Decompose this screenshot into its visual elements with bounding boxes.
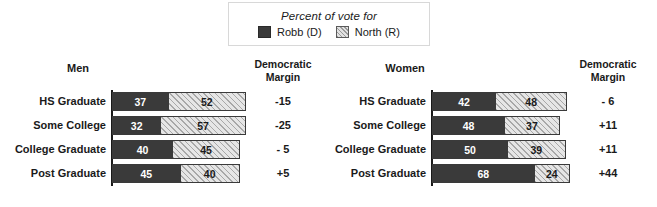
- stacked-bar: 32 57: [112, 116, 246, 135]
- bar-value-label: 32: [131, 120, 143, 132]
- row-label: Post Graduate: [320, 167, 426, 179]
- bar-value-label: 40: [204, 168, 216, 180]
- bar-value-label: 42: [458, 96, 470, 108]
- stacked-bar: 40 45: [112, 140, 240, 159]
- stacked-bar: 68 24: [432, 164, 570, 183]
- margin-value: -25: [240, 119, 326, 131]
- margin-value: +11: [565, 143, 651, 155]
- margin-header-line2: Margin: [240, 71, 326, 84]
- light-hatched-swatch-icon: [336, 26, 349, 38]
- margin-header-line1: Democratic: [565, 58, 651, 71]
- legend-item-label: North (R): [355, 26, 400, 38]
- table-row: HS Graduate 42 48 - 6: [320, 90, 657, 114]
- table-row: Some College 32 57 -25: [0, 114, 330, 138]
- stacked-bar: 48 37: [432, 116, 560, 135]
- margin-value: - 6: [565, 95, 651, 107]
- table-row: HS Graduate 37 52 -15: [0, 90, 330, 114]
- row-label: Some College: [0, 119, 106, 131]
- bar-segment-rep: 45: [172, 141, 239, 158]
- row-label: Post Graduate: [0, 167, 106, 179]
- stacked-bar: 50 39: [432, 140, 566, 159]
- margin-value: - 5: [240, 143, 326, 155]
- table-row: Post Graduate 68 24 +44: [320, 162, 657, 186]
- bar-segment-rep: 37: [504, 117, 559, 134]
- bar-segment-rep: 40: [180, 165, 239, 182]
- table-row: College Graduate 40 45 - 5: [0, 138, 330, 162]
- table-row: College Graduate 50 39 +11: [320, 138, 657, 162]
- bar-rows: HS Graduate 37 52 -15 Some College 32 57…: [0, 90, 330, 186]
- bar-segment-dem: 42: [433, 93, 495, 110]
- legend-items: Robb (D) North (R): [251, 26, 407, 38]
- margin-value: +44: [565, 167, 651, 179]
- bar-value-label: 50: [464, 144, 476, 156]
- margin-header-line2: Margin: [565, 71, 651, 84]
- bar-segment-rep: 52: [168, 93, 245, 110]
- bar-segment-rep: 48: [495, 93, 566, 110]
- margin-column-header: Democratic Margin: [565, 58, 651, 84]
- legend-item-label: Robb (D): [277, 26, 322, 38]
- bar-segment-dem: 50: [433, 141, 507, 158]
- stacked-bar: 45 40: [112, 164, 240, 183]
- bar-value-label: 37: [526, 120, 538, 132]
- row-label: College Graduate: [320, 143, 426, 155]
- bar-segment-dem: 68: [433, 165, 534, 182]
- table-row: Post Graduate 45 40 +5: [0, 162, 330, 186]
- chart-legend: Percent of vote for Robb (D) North (R): [228, 2, 430, 46]
- margin-value: -15: [240, 95, 326, 107]
- margin-value: +5: [240, 167, 326, 179]
- panel-title: Men: [38, 62, 118, 74]
- bar-segment-dem: 45: [113, 165, 180, 182]
- table-row: Some College 48 37 +11: [320, 114, 657, 138]
- bar-segment-rep: 57: [160, 117, 244, 134]
- bar-value-label: 39: [531, 144, 543, 156]
- margin-value: +11: [565, 119, 651, 131]
- margin-header-line1: Democratic: [240, 58, 326, 71]
- bar-segment-rep: 39: [507, 141, 565, 158]
- margin-column-header: Democratic Margin: [240, 58, 326, 84]
- stacked-bar: 37 52: [112, 92, 246, 111]
- bar-segment-dem: 32: [113, 117, 160, 134]
- bar-value-label: 40: [137, 144, 149, 156]
- bar-value-label: 48: [525, 96, 537, 108]
- bar-rows: HS Graduate 42 48 - 6 Some College 48 37…: [320, 90, 657, 186]
- bar-value-label: 68: [477, 168, 489, 180]
- bar-value-label: 52: [201, 96, 213, 108]
- legend-title: Percent of vote for: [281, 10, 377, 22]
- legend-item-north: North (R): [336, 26, 400, 38]
- row-label: College Graduate: [0, 143, 106, 155]
- bar-segment-dem: 48: [433, 117, 504, 134]
- bar-segment-dem: 40: [113, 141, 172, 158]
- panel-title: Women: [360, 62, 450, 74]
- bar-segment-rep: 24: [534, 165, 570, 182]
- stacked-bar: 42 48: [432, 92, 567, 111]
- bar-value-label: 48: [463, 120, 475, 132]
- bar-segment-dem: 37: [113, 93, 168, 110]
- bar-value-label: 57: [197, 120, 209, 132]
- dark-solid-swatch-icon: [258, 26, 271, 38]
- bar-value-label: 45: [200, 144, 212, 156]
- row-label: HS Graduate: [320, 95, 426, 107]
- bar-value-label: 45: [140, 168, 152, 180]
- bar-value-label: 24: [546, 168, 558, 180]
- row-label: HS Graduate: [0, 95, 106, 107]
- bar-value-label: 37: [135, 96, 147, 108]
- legend-item-robb: Robb (D): [258, 26, 322, 38]
- row-label: Some College: [320, 119, 426, 131]
